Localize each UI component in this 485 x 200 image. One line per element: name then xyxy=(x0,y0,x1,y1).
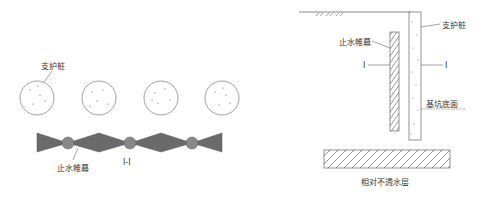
plan-curtain-label: 止水帷幕 xyxy=(57,163,89,173)
impermeable-layer xyxy=(324,150,450,168)
diagram-canvas: 支护桩 止水帷幕 I-I xyxy=(0,0,485,200)
pile-circle xyxy=(82,81,116,115)
pit-bottom-label: 基坑底面 xyxy=(426,99,458,109)
leader-line xyxy=(372,41,390,48)
pile-circle xyxy=(20,81,54,115)
section-label: I-I xyxy=(123,158,131,167)
pile-circle xyxy=(144,81,178,115)
impermeable-layer-label: 相对不透水层 xyxy=(361,177,409,187)
plan-pile-label: 支护桩 xyxy=(41,61,65,71)
support-pile xyxy=(409,12,421,140)
section-view: 支护桩 止水帷幕 I I 基坑底面 相对不透水层 xyxy=(299,12,466,187)
soil-hatch xyxy=(316,13,343,16)
curtain-wall xyxy=(390,32,399,131)
plan-view: 支护桩 止水帷幕 I-I xyxy=(20,61,239,173)
curtain-plan xyxy=(37,133,222,152)
pile-aggregate-dots xyxy=(29,85,230,106)
section-curtain-label: 止水帷幕 xyxy=(339,37,371,47)
leader-line xyxy=(73,148,78,160)
pile-circles xyxy=(20,81,239,115)
section-pile-label: 支护桩 xyxy=(442,20,466,30)
section-mark-left: I xyxy=(363,61,365,70)
section-mark-right: I xyxy=(445,61,447,70)
pile-circle xyxy=(205,81,239,115)
leader-line xyxy=(421,24,440,27)
